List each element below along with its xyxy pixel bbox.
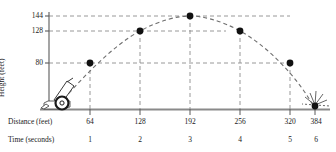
distance-tick-320: 320 [284, 118, 295, 126]
distance-row-label: Distance (feet) [8, 118, 52, 126]
distance-tick-128: 128 [134, 118, 145, 126]
cannonball-trajectory-figure: Height (feet) 144 128 80 Distance (feet)… [0, 0, 336, 152]
y-tick-label-80: 80 [18, 59, 43, 67]
time-tick-1: 1 [88, 136, 92, 144]
trajectory-curve [55, 16, 315, 109]
data-point-320 [287, 60, 294, 67]
data-point-192 [187, 13, 194, 20]
data-point-384 [312, 103, 319, 110]
y-axis-title: Height (feet) [0, 58, 6, 97]
time-row-label: Time (seconds) [8, 136, 54, 144]
distance-tick-256: 256 [234, 118, 245, 126]
cannon-icon [41, 78, 74, 110]
time-tick-2: 2 [138, 136, 142, 144]
y-tick-label-144: 144 [18, 12, 43, 20]
data-point-256 [237, 28, 244, 35]
time-tick-3: 3 [188, 136, 192, 144]
y-tick-label-128: 128 [18, 27, 43, 35]
trajectory-plot [0, 0, 336, 152]
time-tick-5: 5 [288, 136, 292, 144]
distance-tick-192: 192 [184, 118, 195, 126]
data-point-128 [137, 28, 144, 35]
time-tick-4: 4 [238, 136, 242, 144]
time-tick-6: 6 [314, 136, 318, 144]
distance-tick-64: 64 [86, 118, 94, 126]
data-point-64 [87, 60, 94, 67]
distance-tick-384: 384 [310, 118, 321, 126]
y-axis-ticks [45, 16, 49, 63]
data-points [87, 13, 319, 110]
